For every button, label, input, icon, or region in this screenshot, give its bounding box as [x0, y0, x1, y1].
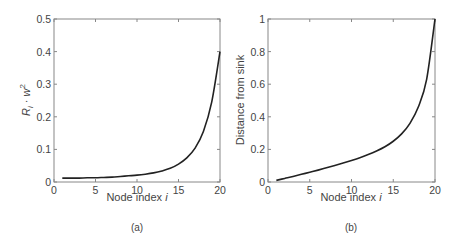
y-tick-label: 0.3 — [36, 78, 51, 90]
x-tick-label: 5 — [307, 184, 313, 196]
y-tick-label: 0.2 — [250, 143, 265, 155]
x-axis-label-b: Node index i — [320, 191, 382, 203]
caption-a: (a) — [131, 222, 143, 233]
chart-a: 05101520 00.10.20.30.40.5 Node index i R… — [18, 13, 226, 233]
x-tick-label: 0 — [51, 184, 57, 196]
y-tick-label: 0.2 — [36, 111, 51, 123]
data-line-b — [276, 19, 435, 180]
y-tick-label: 0.4 — [36, 46, 51, 58]
y-tick-label: 0 — [259, 176, 265, 188]
x-tick-label: 20 — [214, 184, 226, 196]
y-tick-label: 0.8 — [250, 46, 265, 58]
plot-frame-b — [268, 19, 435, 182]
x-ticks-b: 05101520 — [265, 19, 441, 196]
x-tick-label: 0 — [265, 184, 271, 196]
y-axis-label-b: Distance from sink — [234, 54, 246, 145]
y-tick-label: 0.5 — [36, 13, 51, 25]
figure: 05101520 00.10.20.30.40.5 Node index i R… — [0, 0, 455, 242]
y-tick-label: 0.6 — [250, 78, 265, 90]
y-tick-label: 0.4 — [250, 111, 265, 123]
y-axis-label-a: Ri · w2 — [18, 83, 35, 115]
x-ticks-a: 05101520 — [51, 19, 226, 196]
y-ticks-b: 00.20.40.60.81 — [250, 13, 435, 188]
x-tick-label: 20 — [429, 184, 441, 196]
x-axis-label-a: Node index i — [106, 191, 168, 203]
x-tick-label: 5 — [93, 184, 99, 196]
y-tick-label: 0 — [45, 176, 51, 188]
x-tick-label: 15 — [387, 184, 399, 196]
y-tick-label: 0.1 — [36, 143, 51, 155]
data-line-a — [62, 52, 220, 179]
y-ticks-a: 00.10.20.30.40.5 — [36, 13, 220, 188]
y-tick-label: 1 — [259, 13, 265, 25]
x-tick-label: 15 — [173, 184, 185, 196]
plot-frame-a — [54, 19, 220, 182]
caption-b: (b) — [345, 222, 357, 233]
chart-b: 05101520 00.20.40.60.81 Node index i Dis… — [234, 13, 441, 233]
